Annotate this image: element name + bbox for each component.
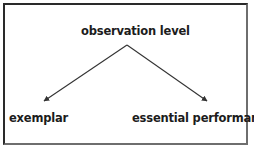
diagram-canvas [0,0,254,151]
edge-observation-level-to-essential-performance [127,45,207,101]
node-label-exemplar: exemplar [9,113,68,125]
node-label-observation-level: observation level [81,26,190,38]
figure-root: observation level exemplar essential per… [0,0,254,151]
node-label-essential-performance: essential performance [132,113,254,125]
edge-observation-level-to-exemplar [44,45,127,101]
